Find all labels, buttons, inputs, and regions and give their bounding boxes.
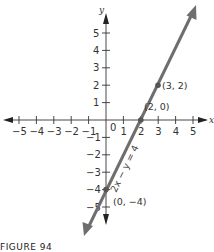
x-tick-label: −2 [64, 126, 79, 137]
point-label-0-neg4: (0, −4) [113, 196, 147, 207]
line-top-arrow-icon [187, 5, 197, 20]
x-axis-label: x [209, 115, 214, 125]
x-tick-labels: −5 −4 −3 −2 −1 0 1 2 3 4 5 [12, 122, 196, 137]
y-tick-label: −1 [86, 132, 101, 143]
origin-label: 0 [110, 122, 116, 133]
point-label-2-0: (2, 0) [144, 101, 170, 112]
x-tick-label: 1 [121, 126, 127, 137]
y-tick-label: 3 [93, 62, 99, 73]
x-tick-label: 5 [190, 126, 196, 137]
y-tick-label: −2 [86, 149, 101, 160]
y-axis-down-arrow-icon [103, 214, 109, 225]
y-axis-label: y [98, 5, 105, 15]
y-tick-label: −4 [86, 184, 101, 195]
x-axis-left-arrow-icon [3, 117, 13, 123]
x-axis: x [3, 115, 214, 125]
y-tick-label: −3 [86, 167, 101, 178]
x-tick-label: −4 [29, 126, 44, 137]
y-tick-label: 5 [93, 28, 99, 39]
figure-caption: FIGURE 94 [0, 242, 52, 252]
y-tick-label: 4 [93, 45, 99, 56]
point-label-3-2: (3, 2) [162, 80, 188, 91]
x-tick-label: 4 [173, 126, 179, 137]
y-tick-label: 1 [93, 97, 99, 108]
x-tick-label: 2 [138, 126, 144, 137]
x-tick-label: 3 [155, 126, 161, 137]
y-tick-label: 2 [93, 80, 99, 91]
point-3-2 [155, 82, 161, 88]
point-2-0 [138, 117, 144, 123]
x-tick-label: −5 [12, 126, 27, 137]
x-axis-right-arrow-icon [198, 117, 208, 123]
x-tick-label: −3 [47, 126, 62, 137]
